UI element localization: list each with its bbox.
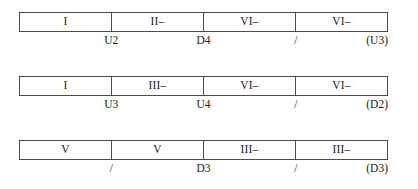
segmented-bar: V V III– III– xyxy=(19,140,388,160)
bar-segment: III– xyxy=(112,77,204,95)
boundary-mark: U2 xyxy=(104,35,118,47)
boundary-mark: / xyxy=(294,99,297,111)
bar-segment: V xyxy=(20,141,112,159)
bar-segment: V xyxy=(112,141,204,159)
boundary-mark: (U3) xyxy=(366,35,388,47)
bar-segment: I xyxy=(20,77,112,95)
bar-segment: I xyxy=(20,13,112,31)
bar-segment: II– xyxy=(112,13,204,31)
bar-segment: VI– xyxy=(296,13,387,31)
bar-row: I III– VI– VI– U3 U4 / (D2) xyxy=(19,76,388,118)
boundary-mark-group: U2 D4 / (U3) xyxy=(19,32,388,54)
bar-segment: III– xyxy=(296,141,387,159)
segmented-bar: I II– VI– VI– xyxy=(19,12,388,32)
bar-segment: III– xyxy=(204,141,296,159)
boundary-mark: / xyxy=(294,163,297,175)
bar-segment: VI– xyxy=(204,77,296,95)
boundary-mark: U3 xyxy=(104,99,118,111)
segmented-bar-diagram: I II– VI– VI– U2 D4 / (U3) I III– VI– VI… xyxy=(0,0,418,189)
bar-segment: VI– xyxy=(204,13,296,31)
boundary-mark: (D2) xyxy=(366,99,388,111)
boundary-mark: D4 xyxy=(196,35,210,47)
boundary-mark-group: / D3 / (D3) xyxy=(19,160,388,182)
boundary-mark: / xyxy=(110,163,113,175)
bar-segment: VI– xyxy=(296,77,387,95)
bar-row: V V III– III– / D3 / (D3) xyxy=(19,140,388,182)
bar-row: I II– VI– VI– U2 D4 / (U3) xyxy=(19,12,388,54)
boundary-mark: D3 xyxy=(196,163,210,175)
boundary-mark: / xyxy=(294,35,297,47)
boundary-mark-group: U3 U4 / (D2) xyxy=(19,96,388,118)
boundary-mark: U4 xyxy=(196,99,210,111)
boundary-mark: (D3) xyxy=(366,163,388,175)
segmented-bar: I III– VI– VI– xyxy=(19,76,388,96)
